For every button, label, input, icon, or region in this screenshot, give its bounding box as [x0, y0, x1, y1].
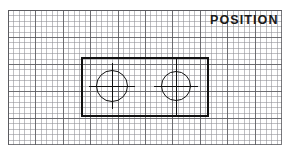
graph-paper-border — [8, 10, 282, 145]
figure-canvas: POSITION — [0, 0, 289, 153]
page-title: POSITION — [210, 13, 279, 28]
